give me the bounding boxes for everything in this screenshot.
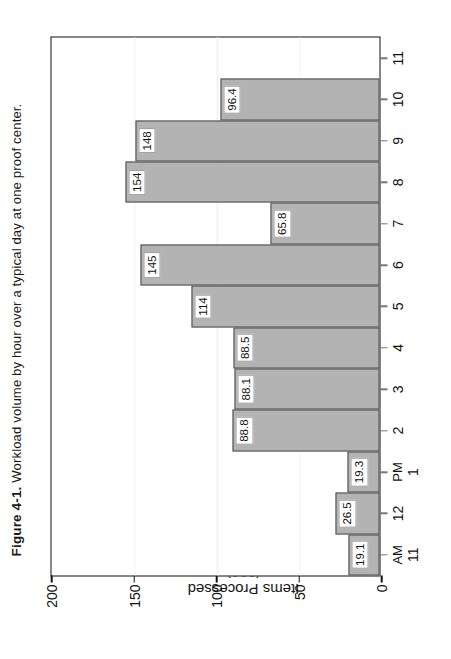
bar-value-label: 88.8 — [235, 416, 253, 444]
bar: 19.3 — [347, 451, 379, 492]
x-axis-tick-label: 8 — [390, 178, 406, 186]
bar: 26.5 — [335, 492, 379, 533]
bar-value-label: 88.5 — [236, 333, 254, 361]
bar-slot: 26.512 — [51, 492, 379, 533]
plot-area: 050100150200 19.1AM1126.51219.3PM188.828… — [50, 36, 380, 576]
x-axis-period-label: PM — [390, 462, 405, 482]
x-axis-tick-label: 3 — [390, 385, 406, 393]
x-axis-tick-mark — [379, 512, 387, 514]
bar-slot: 96.410 — [51, 78, 379, 119]
x-axis-tick-label: 5 — [390, 302, 406, 310]
bar-slot: 65.87 — [51, 202, 379, 243]
bar: 19.1 — [348, 534, 380, 575]
x-axis-tick-label: 11 — [390, 50, 406, 65]
bar-slot: 88.13 — [51, 368, 379, 409]
x-axis-tick-mark — [379, 305, 387, 307]
bar-value-label: 88.1 — [237, 375, 255, 403]
x-axis-tick-mark — [379, 429, 387, 431]
bar-value-label: 26.5 — [338, 499, 356, 527]
bar-slot: 1489 — [51, 120, 379, 161]
x-axis-tick-mark — [379, 554, 387, 556]
bar-slot: 11 — [51, 37, 379, 78]
figure-caption-container: Figure 4-1. Workload volume by hour over… — [0, 0, 34, 659]
bar: 114 — [191, 285, 379, 326]
bar-value-label: 19.3 — [350, 457, 368, 485]
bar-slot: 1145 — [51, 285, 379, 326]
x-axis-tick-label: 6 — [390, 261, 406, 269]
bar-slot: 1456 — [51, 244, 379, 285]
bar-value-label: 114 — [194, 294, 212, 318]
x-axis-tick-mark — [379, 222, 387, 224]
bar: 65.8 — [270, 202, 379, 243]
bar-slot: 88.82 — [51, 409, 379, 450]
x-axis-tick-label: PM1 — [390, 462, 420, 482]
bar-value-label: 145 — [143, 252, 161, 277]
bar-chart: Items Processed (000) Time (hours) 05010… — [38, 17, 447, 642]
bar: 88.1 — [234, 368, 379, 409]
figure-number: Figure 4-1. — [9, 486, 24, 556]
x-axis-tick-mark — [379, 57, 387, 59]
bar: 145 — [140, 244, 379, 285]
x-axis-tick-label: 2 — [390, 426, 406, 434]
bar-series: 19.1AM1126.51219.3PM188.8288.1388.541145… — [51, 37, 379, 575]
bar-slot: 88.54 — [51, 327, 379, 368]
bar: 88.8 — [232, 409, 379, 450]
x-axis-tick-mark — [379, 140, 387, 142]
bar-slot: 1548 — [51, 161, 379, 202]
y-axis-tick-mark — [133, 575, 135, 582]
bar-value-label: 96.4 — [223, 85, 241, 113]
chart-container: Items Processed (000) Time (hours) 05010… — [34, 0, 451, 659]
x-axis-tick-mark — [379, 264, 387, 266]
bar-slot: 19.3PM1 — [51, 451, 379, 492]
y-axis-tick-mark — [298, 575, 300, 582]
y-axis-tick-mark — [215, 575, 217, 582]
x-axis-tick-label: 9 — [390, 137, 406, 145]
bar: 88.5 — [233, 327, 379, 368]
bar: 148 — [135, 120, 379, 161]
bar: 154 — [125, 161, 379, 202]
figure-caption-text: Workload volume by hour over a typical d… — [9, 103, 24, 482]
x-axis-tick-mark — [379, 388, 387, 390]
bar-slot: 19.1AM11 — [51, 534, 379, 575]
x-axis-tick-label: 4 — [390, 343, 406, 351]
x-axis-tick-label: 7 — [390, 219, 406, 227]
x-axis-tick-label: AM11 — [390, 545, 420, 565]
y-axis-tick-mark — [380, 575, 382, 582]
bar-value-label: 154 — [128, 169, 146, 194]
y-axis-tick-mark — [50, 575, 52, 582]
bar: 96.4 — [220, 78, 379, 119]
figure-caption: Figure 4-1. Workload volume by hour over… — [10, 103, 24, 556]
x-axis-tick-mark — [379, 471, 387, 473]
x-axis-tick-mark — [379, 347, 387, 349]
x-axis-tick-mark — [379, 98, 387, 100]
x-axis-tick-label: 10 — [390, 91, 406, 107]
x-axis-period-label: AM — [390, 545, 405, 565]
bar-value-label: 65.8 — [273, 209, 291, 237]
x-axis-tick-mark — [379, 181, 387, 183]
x-axis-tick-label: 12 — [390, 505, 406, 521]
y-axis-title-line1: Items Processed — [187, 581, 299, 598]
bar-value-label: 148 — [138, 128, 156, 153]
bar-value-label: 19.1 — [351, 540, 369, 568]
